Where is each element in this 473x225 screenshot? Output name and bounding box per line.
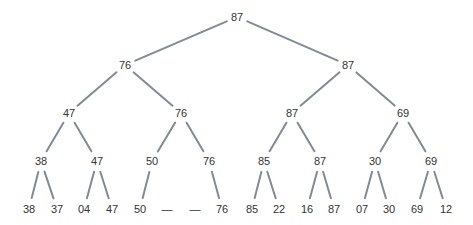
leaf-node-L4-14: 69 bbox=[411, 204, 423, 215]
leaf-node-L4-4: 50 bbox=[134, 204, 146, 215]
tree-edge bbox=[270, 123, 287, 152]
tree-edge bbox=[135, 21, 226, 60]
tree-edge bbox=[298, 123, 315, 152]
tree-edge bbox=[187, 123, 204, 152]
leaf-node-L4-8: 85 bbox=[246, 204, 258, 215]
tree-node-L2-2: 87 bbox=[286, 108, 298, 119]
tree-node-L1-0: 76 bbox=[119, 60, 131, 71]
leaf-node-L4-7: 76 bbox=[216, 204, 228, 215]
leaf-node-L4-3: 47 bbox=[106, 204, 118, 215]
tree-edge bbox=[381, 123, 398, 152]
tree-edge bbox=[378, 172, 386, 198]
tree-edge bbox=[75, 123, 92, 152]
tree-edge bbox=[87, 172, 94, 198]
leaf-node-L4-15: 12 bbox=[440, 204, 452, 215]
tree-node-L2-3: 69 bbox=[397, 108, 409, 119]
tree-edge bbox=[323, 172, 331, 198]
tree-edge bbox=[47, 123, 64, 152]
tree-edge bbox=[356, 72, 394, 105]
tree-edge bbox=[365, 172, 372, 198]
tree-edge bbox=[310, 172, 317, 198]
tree-edge bbox=[212, 172, 219, 198]
tree-edge bbox=[158, 123, 175, 152]
tree-edge bbox=[420, 172, 428, 198]
tree-edge bbox=[409, 123, 426, 152]
tree-edge bbox=[78, 72, 117, 105]
tree-edge bbox=[434, 172, 442, 199]
tree-node-L3-0: 38 bbox=[35, 156, 47, 167]
leaf-node-L4-10: 16 bbox=[301, 204, 313, 215]
tournament-tree-diagram: 8776874776876938475076858730693837044750… bbox=[0, 0, 473, 225]
tree-node-L3-7: 69 bbox=[425, 156, 437, 167]
tree-edge bbox=[100, 172, 108, 199]
tree-edge bbox=[134, 72, 173, 105]
tree-edge bbox=[247, 21, 337, 60]
tree-edge bbox=[45, 172, 54, 199]
tree-edge bbox=[267, 172, 275, 199]
tree-edge bbox=[143, 172, 150, 198]
tree-edge bbox=[32, 172, 39, 198]
tree-node-L0-0: 87 bbox=[231, 12, 243, 23]
tree-node-L3-1: 47 bbox=[91, 156, 103, 167]
leaf-node-L4-13: 30 bbox=[383, 204, 395, 215]
tree-node-L3-5: 87 bbox=[314, 156, 326, 167]
leaf-node-L4-12: 07 bbox=[356, 204, 368, 215]
tree-node-L2-0: 47 bbox=[63, 108, 75, 119]
leaf-node-L4-9: 22 bbox=[273, 204, 285, 215]
tree-edge bbox=[255, 172, 262, 198]
leaf-node-L4-2: 04 bbox=[78, 204, 90, 215]
tree-edge bbox=[301, 72, 340, 105]
leaf-node-L4-0: 38 bbox=[23, 204, 35, 215]
tree-node-L3-4: 85 bbox=[258, 156, 270, 167]
tree-node-L3-6: 30 bbox=[369, 156, 381, 167]
leaf-node-L4-1: 37 bbox=[51, 204, 63, 215]
tree-node-L3-2: 50 bbox=[146, 156, 158, 167]
leaf-node-L4-5: — bbox=[162, 204, 173, 215]
tree-node-L3-3: 76 bbox=[203, 156, 215, 167]
leaf-node-L4-6: — bbox=[190, 204, 201, 215]
tree-node-L2-1: 76 bbox=[175, 108, 187, 119]
leaf-node-L4-11: 87 bbox=[328, 204, 340, 215]
tree-node-L1-1: 87 bbox=[342, 60, 354, 71]
